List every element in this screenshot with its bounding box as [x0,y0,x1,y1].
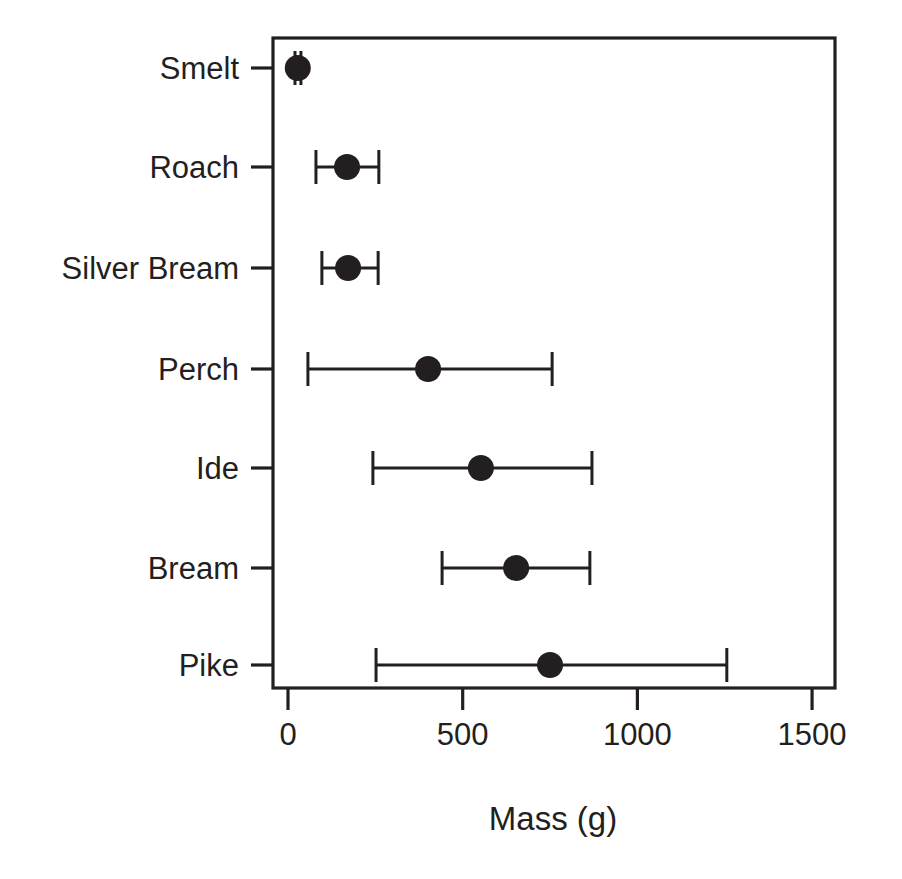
marker-smelt [285,55,311,81]
y-label-ide: Ide [196,451,239,486]
data-point-group-ide [373,451,592,485]
marker-roach [334,154,360,180]
y-label-silver-bream: Silver Bream [62,251,239,286]
y-label-perch: Perch [158,352,239,387]
data-point-group-roach [316,150,379,184]
marker-perch [415,356,441,382]
chart-figure: SmeltRoachSilver BreamPerchIdeBreamPike … [0,0,902,879]
plot-box-border [273,38,835,688]
data-series-layer [285,51,727,682]
data-point-group-silver-bream [322,251,378,285]
y-label-roach: Roach [149,150,239,185]
marker-bream [503,555,529,581]
y-axis-labels: SmeltRoachSilver BreamPerchIdeBreamPike [62,51,240,683]
plot-frame [273,38,835,688]
x-axis-ticks [288,688,812,710]
y-label-smelt: Smelt [160,51,240,86]
x-tick-label-0: 0 [279,717,296,752]
x-axis-title: Mass (g) [489,800,617,837]
y-axis-ticks [251,68,273,665]
x-tick-label-500: 500 [437,717,489,752]
y-label-bream: Bream [148,551,239,586]
data-point-group-pike [376,648,727,682]
marker-silver-bream [335,255,361,281]
marker-ide [468,455,494,481]
dot-plot-with-error-bars: SmeltRoachSilver BreamPerchIdeBreamPike … [0,0,902,879]
x-axis-tick-labels: 050010001500 [279,717,846,752]
data-point-group-bream [442,551,590,585]
marker-pike [537,652,563,678]
y-label-pike: Pike [179,648,239,683]
data-point-group-smelt [285,51,311,85]
x-tick-label-1000: 1000 [603,717,672,752]
data-point-group-perch [308,352,552,386]
x-tick-label-1500: 1500 [778,717,847,752]
